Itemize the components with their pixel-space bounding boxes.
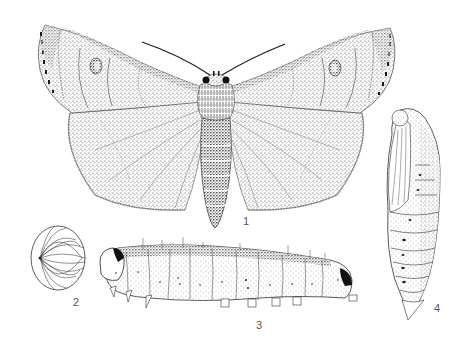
figure-label-4: 4 — [434, 303, 440, 314]
proleg — [272, 298, 280, 306]
figure-label-1: 1 — [243, 216, 249, 227]
left-forewing — [38, 25, 205, 113]
figure-4-pupa — [387, 109, 440, 320]
left-eye — [203, 77, 210, 84]
right-forewing — [227, 28, 395, 113]
right-hindwing — [228, 100, 364, 210]
proleg — [248, 299, 256, 307]
illustration-plate — [0, 0, 474, 351]
anal-proleg — [349, 295, 357, 301]
left-hindwing — [68, 100, 205, 210]
figure-label-2: 2 — [73, 297, 79, 308]
figure-1-moth — [38, 25, 395, 228]
abdomen — [201, 118, 232, 228]
right-eye — [223, 77, 230, 84]
figure-2-egg — [31, 226, 85, 290]
proleg — [221, 299, 229, 307]
proleg — [293, 297, 301, 305]
figure-3-larva — [100, 237, 357, 308]
figure-label-3: 3 — [256, 320, 262, 331]
